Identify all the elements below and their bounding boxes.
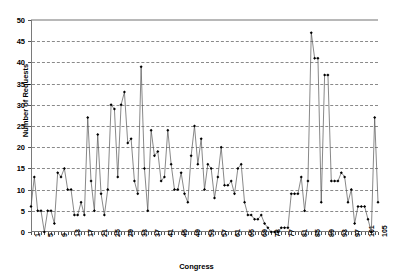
data-point	[377, 201, 380, 204]
data-point	[336, 180, 339, 183]
data-point	[173, 188, 176, 191]
data-point	[133, 180, 136, 183]
data-point	[286, 226, 289, 229]
data-point	[93, 209, 96, 212]
data-point	[83, 214, 86, 217]
data-point	[53, 222, 56, 225]
data-point	[360, 205, 363, 208]
data-point	[283, 226, 286, 229]
data-point	[366, 218, 369, 221]
data-point	[243, 201, 246, 204]
data-point	[303, 209, 306, 212]
data-point	[323, 74, 326, 77]
data-point	[170, 163, 173, 166]
data-point	[326, 74, 329, 77]
data-point	[273, 231, 276, 234]
data-point	[290, 192, 293, 195]
data-point	[116, 175, 119, 178]
data-point	[146, 209, 149, 212]
data-point	[350, 188, 353, 191]
data-point	[306, 180, 309, 183]
series-line	[31, 33, 378, 232]
data-point	[40, 209, 43, 212]
data-point	[193, 125, 196, 128]
data-point	[123, 91, 126, 94]
data-point	[356, 205, 359, 208]
data-point	[96, 133, 99, 136]
data-point	[43, 231, 46, 234]
chart-container: 05101520253035404550 Number of Requests …	[0, 0, 393, 275]
data-point	[70, 188, 73, 191]
data-point	[90, 180, 93, 183]
data-point	[63, 167, 66, 170]
data-point	[320, 201, 323, 204]
data-point	[293, 192, 296, 195]
data-point	[80, 201, 83, 204]
data-point	[246, 214, 249, 217]
data-point	[176, 188, 179, 191]
data-point	[136, 192, 139, 195]
data-point	[180, 171, 183, 174]
data-point	[120, 103, 123, 106]
data-point	[216, 175, 219, 178]
data-point	[106, 188, 109, 191]
data-series	[0, 0, 393, 275]
data-point	[370, 231, 373, 234]
data-point	[150, 129, 153, 132]
data-point	[140, 65, 143, 68]
data-point	[186, 201, 189, 204]
data-point	[196, 163, 199, 166]
data-point	[300, 175, 303, 178]
data-point	[36, 209, 39, 212]
data-point	[313, 57, 316, 60]
data-point	[203, 188, 206, 191]
data-point	[363, 205, 366, 208]
data-point	[223, 184, 226, 187]
data-point	[33, 175, 36, 178]
data-point	[143, 167, 146, 170]
data-point	[213, 197, 216, 200]
data-point	[76, 214, 79, 217]
data-point	[50, 209, 53, 212]
data-point	[296, 192, 299, 195]
data-point	[100, 192, 103, 195]
data-point	[316, 57, 319, 60]
data-point	[46, 209, 49, 212]
data-point	[333, 180, 336, 183]
data-point	[233, 192, 236, 195]
data-point	[353, 222, 356, 225]
data-point	[200, 137, 203, 140]
data-point	[73, 214, 76, 217]
data-point	[166, 129, 169, 132]
data-point	[310, 31, 313, 34]
data-point	[190, 154, 193, 157]
data-point	[86, 116, 89, 119]
data-point	[346, 201, 349, 204]
data-point	[330, 180, 333, 183]
data-point	[373, 116, 376, 119]
data-point	[103, 214, 106, 217]
data-point	[183, 192, 186, 195]
data-point	[30, 205, 33, 208]
data-point	[66, 188, 69, 191]
data-point	[220, 146, 223, 149]
